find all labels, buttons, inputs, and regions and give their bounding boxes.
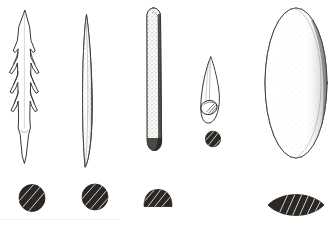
plate-canvas <box>0 0 331 225</box>
artifact-plate <box>0 0 331 225</box>
